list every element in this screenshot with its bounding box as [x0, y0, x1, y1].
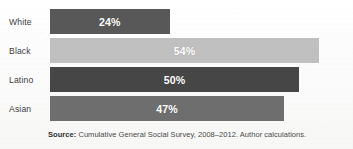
table-row: Asian 47% [0, 94, 353, 123]
table-row: Black 54% [0, 36, 353, 65]
category-label-asian: Asian [9, 94, 49, 123]
bar-value-white: 24% [99, 16, 121, 28]
category-label-white: White [9, 7, 49, 36]
bar-value-black: 54% [174, 45, 196, 57]
table-row: Latino 50% [0, 65, 353, 94]
bar-value-latino: 50% [164, 74, 186, 86]
bar-asian: 47% [50, 96, 284, 121]
bar-track-asian: 47% [50, 96, 353, 121]
category-label-black: Black [9, 36, 49, 65]
table-row: White 24% [0, 7, 353, 36]
category-label-latino: Latino [9, 65, 49, 94]
bar-latino: 50% [50, 67, 299, 92]
source-text: Cumulative General Social Survey, 2008–2… [76, 130, 306, 139]
bar-track-white: 24% [50, 9, 353, 34]
chart-plot-area: White 24% Black 54% Latino 50% [0, 7, 353, 123]
source-note: Source: Cumulative General Social Survey… [48, 130, 306, 139]
bar-white: 24% [50, 9, 170, 34]
bar-value-asian: 47% [156, 103, 178, 115]
source-prefix: Source: [48, 130, 76, 139]
bar-chart-figure: White 24% Black 54% Latino 50% [0, 0, 353, 149]
bar-black: 54% [50, 38, 319, 63]
bar-track-black: 54% [50, 38, 353, 63]
bar-track-latino: 50% [50, 67, 353, 92]
